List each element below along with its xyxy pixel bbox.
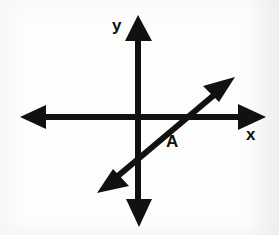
y-axis-label: y: [112, 17, 121, 34]
coordinate-plane-figure: y x A: [0, 0, 279, 235]
coordinate-plane-svg: [0, 0, 279, 235]
y-axis-up-arrowhead-icon: [125, 15, 152, 41]
y-axis: [125, 15, 152, 227]
y-axis-down-arrowhead-icon: [126, 199, 152, 227]
line-a-label: A: [166, 133, 178, 150]
x-axis-left-arrowhead-icon: [20, 105, 46, 129]
x-axis-label: x: [246, 126, 255, 143]
x-axis: [20, 104, 266, 130]
